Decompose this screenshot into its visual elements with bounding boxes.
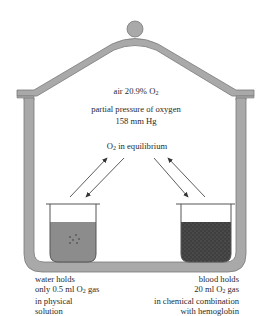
bell-jar-diagram [0,0,269,316]
jar-knob [127,21,143,37]
blood-caption: blood holds 20 ml O2 gas in chemical com… [154,274,239,316]
air-composition-label: air 20.9% O2 [114,86,159,98]
pressure-value-label: 158 mm Hg [115,116,156,126]
water-beaker [46,204,100,262]
equilibrium-label: O2 in equilibrium [107,141,167,153]
partial-pressure-label: partial pressure of oxygen [91,104,181,114]
water-caption: water holds only 0.5 ml O2 gas in physic… [35,274,99,316]
equilibrium-arrows [70,158,205,197]
blood-beaker [176,204,235,262]
